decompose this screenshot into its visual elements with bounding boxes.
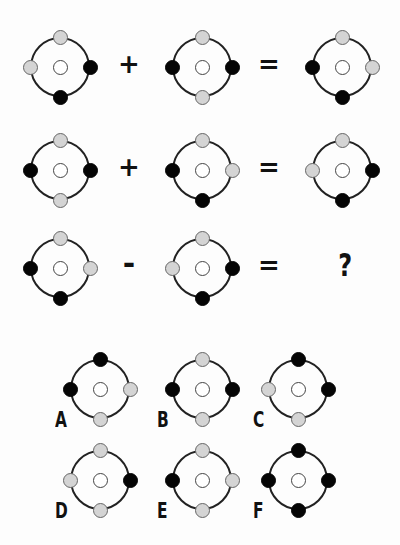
black-dot-right <box>123 473 138 488</box>
plus-sign: + <box>114 152 144 182</box>
black-dot-top <box>93 352 108 367</box>
equals-sign: = <box>254 152 284 182</box>
black-dot-right <box>225 382 240 397</box>
black-dot-right <box>225 60 240 75</box>
white-dot-center <box>195 473 210 488</box>
white-dot-center <box>335 163 350 178</box>
black-dot-left <box>165 60 180 75</box>
black-dot-right <box>321 382 336 397</box>
option-c-label: C <box>253 407 264 432</box>
black-dot-top <box>291 443 306 458</box>
gray-dot-right <box>123 382 138 397</box>
gray-dot-top <box>93 443 108 458</box>
gray-dot-left <box>261 382 276 397</box>
gray-dot-bottom <box>291 412 306 427</box>
gray-dot-bottom <box>53 193 68 208</box>
equals-sign: = <box>254 250 284 280</box>
equals-sign: = <box>254 49 284 79</box>
gray-dot-bottom <box>93 503 108 518</box>
option-e-figure[interactable] <box>162 440 242 520</box>
option-e-label: E <box>157 498 168 523</box>
equation-2-operand1 <box>20 130 100 210</box>
option-a-label: A <box>55 407 67 432</box>
black-dot-bottom <box>335 90 350 105</box>
white-dot-center <box>291 382 306 397</box>
white-dot-center <box>195 261 210 276</box>
gray-dot-bottom <box>93 412 108 427</box>
option-b-figure[interactable] <box>162 349 242 429</box>
gray-dot-left <box>63 473 78 488</box>
gray-dot-top <box>335 30 350 45</box>
black-dot-left <box>165 382 180 397</box>
equation-1-result <box>302 27 382 107</box>
black-dot-right <box>83 163 98 178</box>
gray-dot-left <box>165 261 180 276</box>
white-dot-center <box>53 163 68 178</box>
white-dot-center <box>195 382 210 397</box>
white-dot-center <box>291 473 306 488</box>
minus-sign: - <box>114 246 144 281</box>
white-dot-center <box>93 473 108 488</box>
black-dot-left <box>63 382 78 397</box>
option-a-figure[interactable] <box>60 349 140 429</box>
black-dot-bottom <box>53 291 68 306</box>
equation-2-operand2 <box>162 130 242 210</box>
black-dot-bottom <box>195 193 210 208</box>
white-dot-center <box>195 163 210 178</box>
white-dot-center <box>93 382 108 397</box>
gray-dot-top <box>195 443 210 458</box>
black-dot-left <box>23 163 38 178</box>
white-dot-center <box>335 60 350 75</box>
white-dot-center <box>195 60 210 75</box>
black-dot-right <box>83 60 98 75</box>
option-d-label: D <box>55 498 68 523</box>
gray-dot-top <box>335 133 350 148</box>
gray-dot-bottom <box>195 90 210 105</box>
option-c-figure[interactable] <box>258 349 338 429</box>
black-dot-top <box>291 352 306 367</box>
black-dot-bottom <box>195 291 210 306</box>
gray-dot-top <box>53 231 68 246</box>
plus-sign: + <box>114 49 144 79</box>
question-mark: ? <box>338 246 352 284</box>
gray-dot-top <box>53 133 68 148</box>
black-dot-right <box>365 163 380 178</box>
black-dot-left <box>23 261 38 276</box>
gray-dot-bottom <box>195 412 210 427</box>
gray-dot-left <box>305 163 320 178</box>
option-f-figure[interactable] <box>258 440 338 520</box>
black-dot-bottom <box>53 90 68 105</box>
option-b-label: B <box>157 407 169 432</box>
black-dot-left <box>165 473 180 488</box>
black-dot-right <box>321 473 336 488</box>
gray-dot-top <box>53 30 68 45</box>
equation-2-result <box>302 130 382 210</box>
gray-dot-right <box>365 60 380 75</box>
white-dot-center <box>53 261 68 276</box>
gray-dot-right <box>225 473 240 488</box>
gray-dot-top <box>195 133 210 148</box>
gray-dot-top <box>195 352 210 367</box>
gray-dot-top <box>195 231 210 246</box>
gray-dot-right <box>225 163 240 178</box>
black-dot-bottom <box>335 193 350 208</box>
equation-3-operand1 <box>20 228 100 308</box>
gray-dot-bottom <box>195 503 210 518</box>
black-dot-left <box>165 163 180 178</box>
equation-3-operand2 <box>162 228 242 308</box>
black-dot-bottom <box>291 503 306 518</box>
black-dot-right <box>225 261 240 276</box>
option-d-figure[interactable] <box>60 440 140 520</box>
black-dot-left <box>261 473 276 488</box>
gray-dot-top <box>195 30 210 45</box>
gray-dot-left <box>23 60 38 75</box>
equation-1-operand2 <box>162 27 242 107</box>
white-dot-center <box>53 60 68 75</box>
gray-dot-right <box>83 261 98 276</box>
black-dot-left <box>305 60 320 75</box>
equation-1-operand1 <box>20 27 100 107</box>
option-f-label: F <box>253 498 264 523</box>
